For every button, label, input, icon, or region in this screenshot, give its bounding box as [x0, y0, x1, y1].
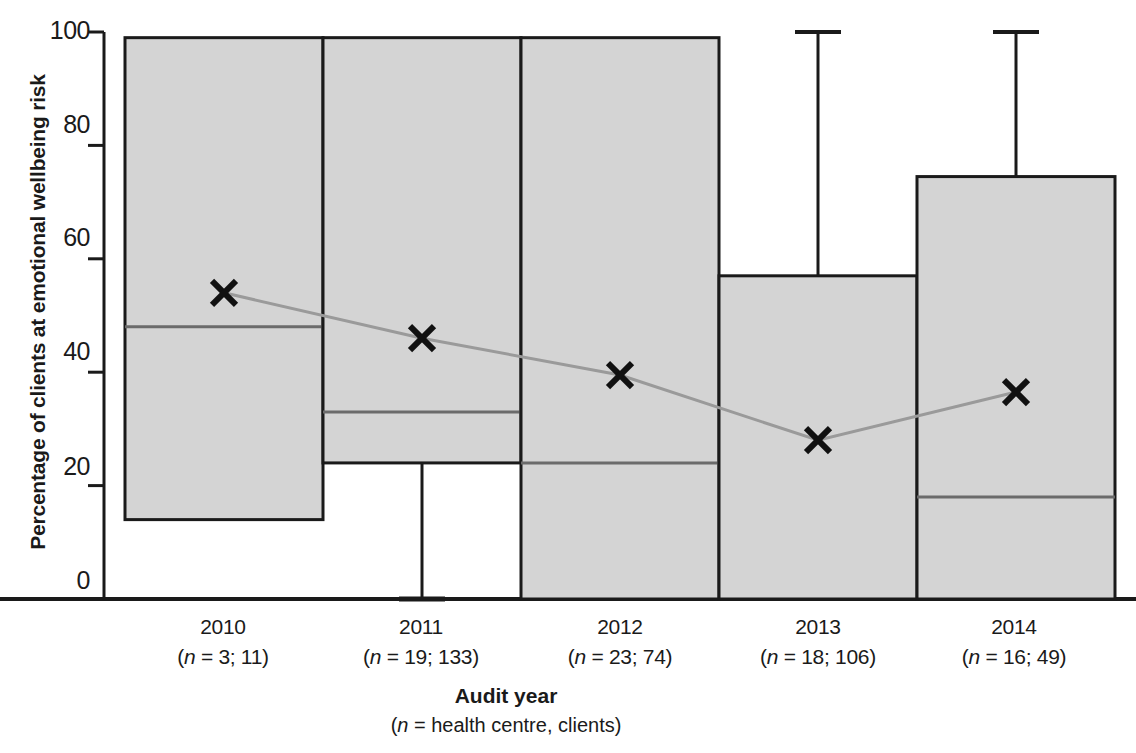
x-axis-subtitle: (n = health centre, clients) [0, 714, 1012, 737]
x-tick-group-2013: 2013 (n = 18; 106) [713, 612, 923, 672]
x-tick-note-2012: (n = 23; 74) [515, 642, 725, 672]
x-tick-note-2011: (n = 19; 133) [316, 642, 526, 672]
box-2012 [521, 38, 719, 599]
x-tick-note-2013: (n = 18; 106) [713, 642, 923, 672]
x-tick-group-2010: 2010 (n = 3; 11) [118, 612, 328, 672]
box-2011 [323, 38, 521, 599]
box-plot-figure: Percentage of clients at emotional wellb… [0, 0, 1136, 753]
x-tick-year-2012: 2012 [515, 612, 725, 642]
x-tick-year-2011: 2011 [316, 612, 526, 642]
plot-area [0, 0, 1136, 640]
box-2010 [125, 38, 323, 520]
x-axis-subtitle-n: n [397, 714, 408, 736]
box-rect-2010 [125, 38, 323, 520]
box-2014 [917, 32, 1115, 599]
x-axis-subtitle-rest: = health centre, clients) [408, 714, 621, 736]
x-tick-note-2010: (n = 3; 11) [118, 642, 328, 672]
x-axis-title: Audit year [0, 684, 1012, 708]
box-rect-2012 [521, 38, 719, 599]
box-rect-2011 [323, 38, 521, 463]
x-tick-note-2014: (n = 16; 49) [909, 642, 1119, 672]
x-tick-group-2011: 2011 (n = 19; 133) [316, 612, 526, 672]
box-rect-2014 [917, 177, 1115, 599]
y-axis-ticks [88, 32, 104, 599]
x-tick-year-2013: 2013 [713, 612, 923, 642]
box-2013 [719, 32, 917, 599]
x-tick-group-2014: 2014 (n = 16; 49) [909, 612, 1119, 672]
x-tick-year-2014: 2014 [909, 612, 1119, 642]
box-plot-boxes [125, 32, 1115, 599]
x-tick-group-2012: 2012 (n = 23; 74) [515, 612, 725, 672]
x-tick-year-2010: 2010 [118, 612, 328, 642]
